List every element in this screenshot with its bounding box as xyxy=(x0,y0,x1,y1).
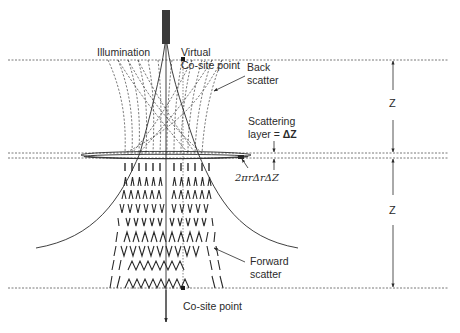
forward-scatter-label: Forward scatter xyxy=(250,255,289,281)
virtual-cosite-label: Virtual Co-site point xyxy=(181,46,240,72)
back-scatter-leader xyxy=(214,76,245,91)
scattering-layer-label: Scattering layer = ΔZ xyxy=(248,115,297,141)
back-scatter-label: Back scatter xyxy=(247,61,279,87)
back-scatter-label-line1: Back xyxy=(247,61,279,74)
scattering-layer-label-line1: Scattering xyxy=(248,115,297,128)
forward-scatter-leader xyxy=(214,248,245,262)
virtual-cosite-label-line2: Co-site point xyxy=(181,59,240,72)
cosite-point-label: Co-site point xyxy=(183,300,242,313)
reference-planes xyxy=(8,60,448,288)
forward-scatter-label-line1: Forward xyxy=(250,255,289,268)
beam-envelope xyxy=(36,153,298,248)
back-scatter-field xyxy=(108,60,222,153)
z-lower-label: Z xyxy=(389,203,396,217)
back-scatter-label-line2: scatter xyxy=(247,74,279,87)
scattering-layer-label-line2: layer = ΔZ xyxy=(248,128,297,141)
annulus-leader xyxy=(242,159,248,168)
annulus-element xyxy=(238,155,244,159)
illumination-label: Illumination xyxy=(97,46,150,59)
scattering-layer-value: ΔZ xyxy=(283,128,297,140)
cosite-point xyxy=(181,286,185,290)
annulus-volume-label: 2πrΔrΔZ xyxy=(235,171,279,184)
forward-scatter-field xyxy=(110,163,223,288)
virtual-cosite-label-line1: Virtual xyxy=(181,46,240,59)
scattering-layer-prefix: layer = xyxy=(248,128,283,140)
leader-lines xyxy=(214,76,274,262)
forward-scatter-label-line2: scatter xyxy=(250,268,289,281)
illumination-source xyxy=(162,10,170,44)
z-upper-label: Z xyxy=(389,96,396,110)
